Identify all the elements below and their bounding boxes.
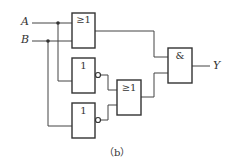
inversion-bubble-1 — [96, 73, 101, 78]
output-label-y: Y — [213, 59, 220, 72]
input-label-b: B — [21, 33, 29, 46]
input-label-a: A — [21, 15, 29, 28]
and-gate-symbol: & — [168, 50, 192, 61]
figure-caption: （b） — [104, 144, 130, 159]
or-gate-mid-symbol: ≥1 — [117, 82, 141, 93]
inversion-bubble-2 — [96, 118, 101, 123]
junction-dot-b — [46, 39, 50, 43]
not-gate-2-symbol: 1 — [72, 105, 95, 116]
or-gate-top-symbol: ≥1 — [72, 14, 95, 25]
junction-dot-a — [56, 21, 60, 25]
not-gate-1-symbol: 1 — [72, 60, 95, 71]
circuit-wires — [0, 0, 229, 166]
